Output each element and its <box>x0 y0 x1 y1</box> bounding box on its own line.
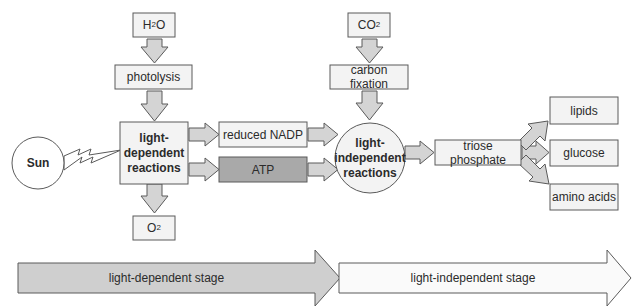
photolysis-label: photolysis <box>115 65 192 89</box>
photosynthesis-diagram <box>0 0 632 306</box>
arrow-h2o-photolysis <box>141 39 168 63</box>
arrow-ld-atp <box>189 158 219 181</box>
light-dependent-label: light- dependent reactions <box>120 122 188 184</box>
lightning-bolt-icon <box>64 149 121 170</box>
lipids-label: lipids <box>550 97 618 124</box>
triose-phosphate-label: triose phosphate <box>435 140 521 165</box>
arrow-carbon-li <box>356 91 383 120</box>
light-independent-stage-label: light-independent stage <box>339 263 607 293</box>
light-independent-label: light- independent reactions <box>335 123 405 193</box>
glucose-label: glucose <box>550 140 618 166</box>
sun-label: Sun <box>12 137 64 189</box>
arrow-co2-carbon <box>356 39 383 63</box>
arrow-photolysis-ld <box>141 91 168 121</box>
arrow-li-triose <box>405 141 434 164</box>
arrow-ld-o2-down <box>141 184 168 213</box>
h2o-label: H2O <box>133 13 175 37</box>
arrow-ld-nadp <box>189 123 219 146</box>
light-dependent-stage-label: light-dependent stage <box>18 263 315 293</box>
amino-acids-label: amino acids <box>550 184 618 210</box>
co2-label: CO2 <box>348 13 390 37</box>
o2-label: O2 <box>133 216 175 240</box>
carbon-fixation-label: carbon fixation <box>330 65 408 89</box>
reduced-nadp-label: reduced NADP <box>219 122 307 147</box>
atp-label: ATP <box>219 157 307 182</box>
